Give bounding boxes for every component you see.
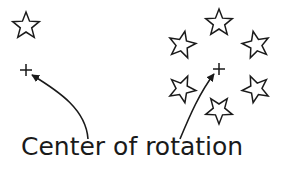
rotated-star-icon — [170, 31, 196, 57]
rotated-star-icon — [242, 31, 268, 57]
center-of-rotation-marker — [20, 64, 32, 76]
rotated-stars-figure — [170, 9, 268, 124]
rotated-star-icon — [206, 9, 233, 34]
star-icon — [13, 12, 40, 37]
rotated-star-icon — [206, 99, 233, 124]
center-of-rotation-marker — [213, 63, 225, 75]
rotated-star-icon — [242, 76, 268, 102]
left-arrow — [32, 75, 88, 139]
rotated-star-icon — [170, 76, 196, 102]
single-star-figure — [13, 12, 40, 76]
caption-center-of-rotation: Center of rotation — [21, 132, 243, 161]
